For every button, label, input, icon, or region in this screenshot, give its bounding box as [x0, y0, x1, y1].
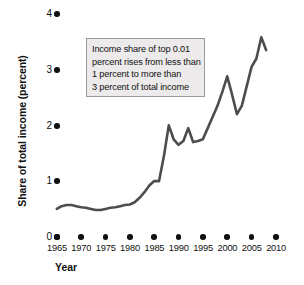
annotation-line-4: 3 percent of total income: [92, 81, 199, 94]
annotation-line-2: percent rises from less than: [92, 56, 199, 69]
annotation-line-3: 1 percent to more than: [92, 68, 199, 81]
annotation-line-1: Income share of top 0.01: [92, 43, 199, 56]
chart-container: Share of total income (percent) Year 4 3…: [0, 0, 304, 285]
annotation-box: Income share of top 0.01 percent rises f…: [86, 38, 205, 97]
